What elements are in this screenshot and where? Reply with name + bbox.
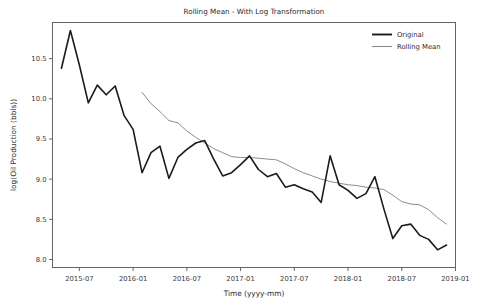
x-axis-label: Time (yyyy-mm)	[223, 289, 285, 298]
y-tick-label: 8.0	[36, 256, 47, 264]
x-tick-label: 2016-01	[119, 275, 147, 283]
x-tick-label: 2016-07	[173, 275, 201, 283]
chart-figure: Rolling Mean - With Log Transformation 8…	[0, 0, 480, 308]
x-tick-label: 2017-01	[226, 275, 254, 283]
y-tick-label: 9.0	[36, 176, 47, 184]
y-tick-label: 10.0	[31, 95, 46, 103]
x-tick-label: 2019-01	[441, 275, 469, 283]
y-axis-label: log(Oil Production (bbls))	[9, 99, 18, 191]
legend-label-rolling-mean: Rolling Mean	[397, 43, 441, 51]
y-tick-label: 8.5	[36, 216, 47, 224]
y-tick-label: 10.5	[31, 55, 46, 63]
chart-title: Rolling Mean - With Log Transformation	[184, 7, 325, 16]
x-tick-label: 2015-07	[65, 275, 93, 283]
y-tick-label: 9.5	[36, 135, 47, 143]
x-tick-label: 2017-07	[280, 275, 308, 283]
chart-canvas: Rolling Mean - With Log Transformation 8…	[0, 0, 480, 308]
x-tick-label: 2018-07	[388, 275, 416, 283]
legend-label-original: Original	[397, 31, 424, 39]
chart-legend: Original Rolling Mean	[366, 26, 470, 56]
x-tick-label: 2018-01	[334, 275, 362, 283]
